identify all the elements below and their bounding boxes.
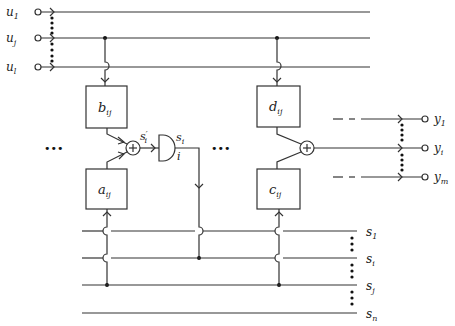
input-label-ul: ul [6, 60, 17, 76]
gate-index-label: i [177, 150, 181, 163]
summer-left [126, 141, 140, 155]
input-label-uj: uj [6, 31, 17, 47]
output-terminal-y1 [422, 116, 428, 122]
state-lines [82, 231, 357, 313]
block-c [257, 169, 300, 209]
input-label-u1: u1 [6, 5, 19, 21]
input-terminal-ul [35, 64, 41, 70]
summer-right [300, 141, 314, 155]
block-b [86, 86, 127, 128]
block-a [86, 169, 127, 209]
sequential-network-diagram: u1 uj ul bij aij s′i si i ••• ••• [0, 0, 455, 326]
output-label-yi: yi [433, 141, 444, 157]
ellipsis-middle: ••• [211, 142, 230, 155]
state-ellipsis-dots [350, 236, 353, 305]
delay-element [159, 135, 175, 161]
gate-output-label: si [176, 131, 185, 146]
output-label-ym: ym [433, 170, 449, 186]
gate-input-label: s′i [140, 129, 148, 145]
output-label-y1: y1 [433, 112, 446, 128]
input-terminal-uj [35, 35, 41, 41]
input-terminal-u1 [35, 9, 41, 15]
output-lines [314, 115, 428, 181]
output-terminal-ym [422, 174, 428, 180]
input-lines [35, 8, 370, 71]
state-label-sn: sn [366, 307, 377, 323]
ellipsis-left: ••• [44, 142, 63, 155]
state-label-si: si [366, 252, 375, 268]
state-label-s1: s1 [366, 225, 377, 241]
d-input-connection [273, 36, 281, 86]
b-input-connection [101, 36, 109, 86]
output-terminal-yi [422, 145, 428, 151]
state-label-sj: sj [366, 279, 375, 295]
